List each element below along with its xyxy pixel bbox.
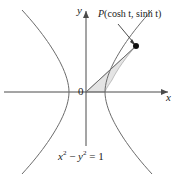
hyperbolic-functions-figure: y x 0 P(cosh t, sinh t) x2 − y2 = 1 (0, 0, 184, 179)
y-axis-arrowhead (83, 11, 89, 18)
equation-minus-operator: − (66, 150, 78, 162)
origin-label: 0 (78, 86, 84, 97)
point-p-y-coordinate: sinh t (136, 8, 158, 19)
hyperbola-right-branch-lower (105, 92, 152, 174)
origin-to-point-segment (86, 46, 136, 92)
point-p-x-coordinate: cosh t (107, 8, 131, 19)
point-p-marker (133, 43, 139, 49)
x-axis-label: x (166, 92, 171, 103)
point-p-close-paren: ) (158, 8, 161, 19)
equation-caption: x2 − y2 = 1 (58, 151, 104, 162)
y-axis-label: y (77, 5, 82, 16)
point-p-label: P(cosh t, sinh t) (98, 9, 161, 19)
equation-equals-one: = 1 (87, 150, 104, 162)
hyperbola-left-branch (22, 10, 69, 92)
point-leader-line (118, 24, 133, 42)
